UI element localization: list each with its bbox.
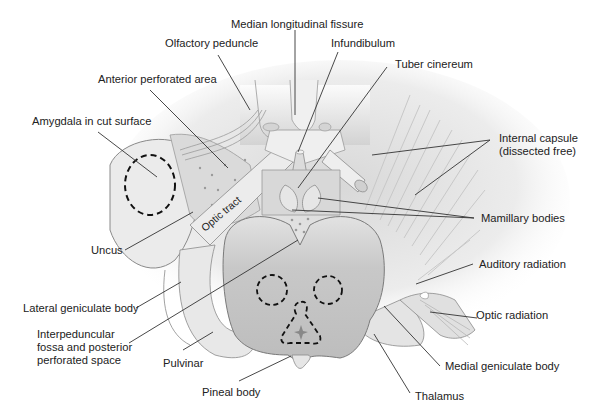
label-optic-radiation: Optic radiation bbox=[476, 309, 548, 322]
label-olfactory-peduncle: Olfactory peduncle bbox=[165, 37, 258, 50]
midbrain-section bbox=[223, 217, 384, 369]
label-internal-capsule: Internal capsule (dissected free) bbox=[499, 132, 578, 158]
label-amygdala: Amygdala in cut surface bbox=[32, 115, 151, 128]
label-lateral-geniculate-body: Lateral geniculate body bbox=[23, 302, 139, 315]
label-tuber-cinereum: Tuber cinereum bbox=[395, 58, 473, 71]
label-pulvinar: Pulvinar bbox=[163, 357, 203, 370]
label-pineal-body: Pineal body bbox=[202, 386, 260, 399]
label-median-longitudinal-fissure: Median longitudinal fissure bbox=[231, 18, 363, 31]
label-auditory-radiation: Auditory radiation bbox=[479, 258, 566, 271]
label-infundibulum: Infundibulum bbox=[331, 37, 395, 50]
label-mamillary-bodies: Mamillary bodies bbox=[481, 212, 565, 225]
label-medial-geniculate-body: Medial geniculate body bbox=[445, 360, 559, 373]
pineal-shape bbox=[292, 355, 310, 368]
label-anterior-perforated-area: Anterior perforated area bbox=[98, 73, 217, 86]
label-thalamus: Thalamus bbox=[415, 390, 464, 403]
label-interpeduncular-fossa: Interpeduncular fossa and posterior perf… bbox=[37, 328, 132, 367]
label-uncus: Uncus bbox=[91, 244, 123, 257]
